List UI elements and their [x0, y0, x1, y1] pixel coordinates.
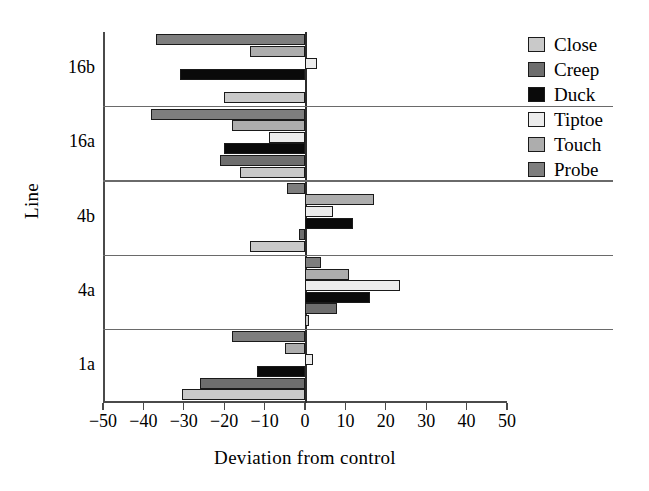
bar-probe-16b	[156, 34, 305, 45]
bar-touch-4b	[305, 194, 374, 205]
bar-close-4a	[305, 315, 309, 326]
bar-close-16b	[224, 92, 305, 103]
x-tick	[466, 403, 467, 410]
legend-label: Creep	[554, 60, 599, 79]
bar-touch-1a	[285, 343, 305, 354]
y-group-label: 16b	[35, 57, 95, 78]
bar-close-1a	[182, 389, 305, 400]
x-tick	[345, 403, 346, 410]
y-axis-title: Line	[21, 141, 43, 261]
x-tick	[426, 403, 427, 410]
legend: CloseCreepDuckTiptoeTouchProbe	[528, 32, 644, 182]
x-tick	[143, 403, 144, 410]
legend-label: Probe	[554, 160, 598, 179]
y-group-label: 1a	[35, 354, 95, 375]
bar-touch-16b	[250, 46, 305, 57]
bar-touch-16a	[232, 120, 305, 131]
legend-item-probe[interactable]: Probe	[528, 157, 644, 182]
bar-probe-4a	[305, 257, 321, 268]
bar-tiptoe-16a	[269, 132, 305, 143]
x-tick	[102, 403, 103, 410]
x-tick	[183, 403, 184, 410]
legend-swatch-icon	[528, 37, 545, 52]
legend-item-close[interactable]: Close	[528, 32, 644, 57]
bar-touch-4a	[305, 269, 349, 280]
plot-area: −50−40−30−20−1001020304050 16b16a4b4a1a	[103, 32, 507, 403]
bar-close-16a	[240, 167, 305, 178]
bar-duck-16b	[180, 69, 305, 80]
group-separator	[103, 255, 613, 256]
legend-label: Touch	[554, 135, 601, 154]
legend-swatch-icon	[528, 87, 545, 102]
bar-duck-16a	[224, 143, 305, 154]
y-group-label: 4a	[35, 280, 95, 301]
x-tick	[304, 403, 305, 410]
bar-creep-4b	[299, 229, 305, 240]
y-group-label: 16a	[35, 131, 95, 152]
bar-duck-4a	[305, 292, 370, 303]
legend-label: Close	[554, 35, 597, 54]
legend-item-duck[interactable]: Duck	[528, 82, 644, 107]
x-tick	[264, 403, 265, 410]
legend-swatch-icon	[528, 137, 545, 152]
bar-tiptoe-4b	[305, 206, 333, 217]
legend-swatch-icon	[528, 162, 545, 177]
legend-swatch-icon	[528, 112, 545, 127]
chart-figure: Line Deviation from control −50−40−30−20…	[0, 0, 649, 491]
legend-label: Tiptoe	[554, 110, 603, 129]
bar-duck-1a	[257, 366, 305, 377]
bar-probe-16a	[151, 109, 305, 120]
y-axis-line	[103, 32, 105, 403]
x-tick-label: 50	[477, 411, 537, 432]
legend-item-tiptoe[interactable]: Tiptoe	[528, 107, 644, 132]
bar-creep-1a	[200, 378, 305, 389]
x-tick	[385, 403, 386, 410]
bar-tiptoe-16b	[305, 58, 317, 69]
legend-label: Duck	[554, 85, 595, 104]
bar-close-4b	[250, 241, 305, 252]
x-tick	[224, 403, 225, 410]
bar-probe-4b	[287, 183, 305, 194]
bar-creep-4a	[305, 303, 337, 314]
group-separator	[103, 329, 613, 330]
legend-item-touch[interactable]: Touch	[528, 132, 644, 157]
bar-probe-1a	[232, 331, 305, 342]
bar-creep-16a	[220, 155, 305, 166]
legend-swatch-icon	[528, 62, 545, 77]
bar-duck-4b	[305, 218, 353, 229]
x-axis-title: Deviation from control	[103, 447, 507, 469]
y-group-label: 4b	[35, 206, 95, 227]
bar-tiptoe-1a	[305, 354, 313, 365]
bar-tiptoe-4a	[305, 280, 400, 291]
x-tick	[506, 403, 507, 410]
legend-item-creep[interactable]: Creep	[528, 57, 644, 82]
